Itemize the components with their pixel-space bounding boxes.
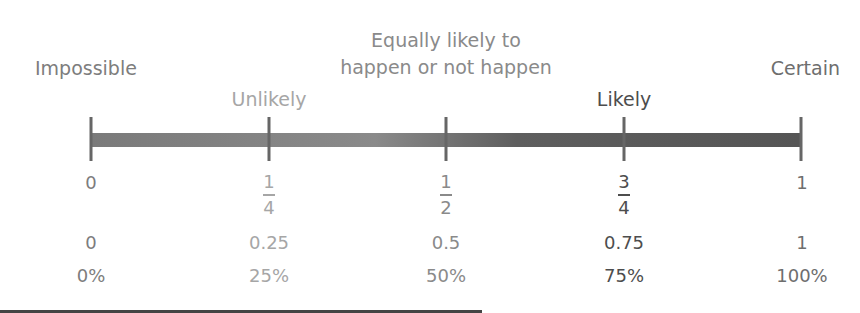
percent-25: 25% <box>249 265 289 287</box>
percent-75: 75% <box>604 265 644 287</box>
denominator: 4 <box>618 198 630 218</box>
tick-quarter <box>268 117 271 161</box>
decimal-0-25: 0.25 <box>249 232 289 254</box>
fraction-bar <box>618 194 630 196</box>
label-likely: Likely <box>597 87 651 111</box>
percent-0: 0% <box>77 265 106 287</box>
decimal-1: 1 <box>796 232 807 254</box>
tick-half <box>445 117 448 161</box>
fraction-0: 0 <box>85 172 96 194</box>
tick-0 <box>90 117 93 161</box>
label-unlikely: Unlikely <box>231 87 306 111</box>
fraction-1-4: 1 4 <box>263 172 275 218</box>
tick-1 <box>800 117 803 161</box>
fraction-bar <box>440 194 452 196</box>
fraction-1: 1 <box>796 172 807 194</box>
denominator: 2 <box>440 198 452 218</box>
decimal-0: 0 <box>85 232 96 254</box>
numerator: 1 <box>440 172 452 192</box>
label-equally-likely-line2: happen or not happen <box>340 55 552 79</box>
fraction-bar <box>263 194 275 196</box>
fraction-3-4: 3 4 <box>618 172 630 218</box>
decimal-0-75: 0.75 <box>604 232 644 254</box>
numerator: 3 <box>618 172 630 192</box>
label-impossible: Impossible <box>35 56 137 80</box>
label-certain: Certain <box>771 56 840 80</box>
label-equally-likely-line1: Equally likely to <box>371 28 521 52</box>
tick-three-quarter <box>623 117 626 161</box>
numerator: 1 <box>263 172 275 192</box>
decimal-0-5: 0.5 <box>432 232 461 254</box>
denominator: 4 <box>263 198 275 218</box>
fraction-1-2: 1 2 <box>440 172 452 218</box>
percent-50: 50% <box>426 265 466 287</box>
percent-100: 100% <box>776 265 827 287</box>
